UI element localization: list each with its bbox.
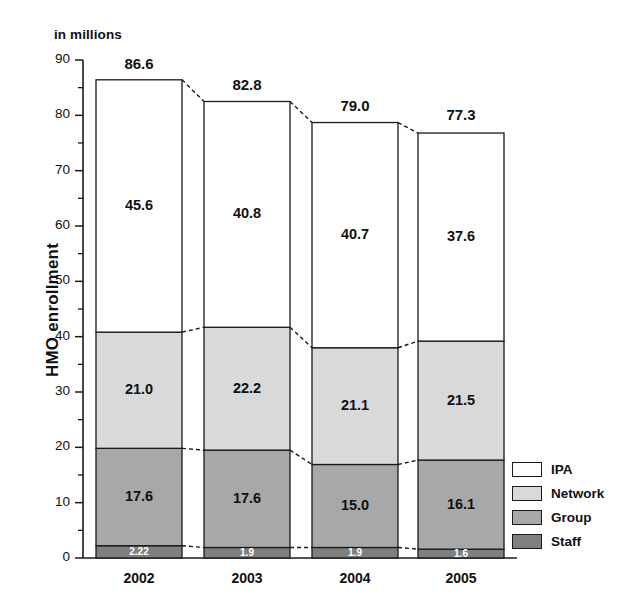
bar-total-2005: 77.3 — [412, 106, 510, 123]
bar-total-2002: 86.6 — [90, 55, 188, 72]
legend-item-network[interactable]: Network — [512, 481, 604, 505]
bar-segment-2005-staff[interactable] — [418, 549, 504, 558]
legend-label-group: Group — [551, 510, 592, 525]
x-tick-label-2005: 2005 — [412, 570, 510, 586]
x-tick-label-2002: 2002 — [90, 570, 188, 586]
bar-segment-2004-group[interactable] — [312, 464, 398, 547]
chart-legend: IPA Network Group Staff — [512, 457, 604, 553]
bar-segment-2005-group[interactable] — [418, 460, 504, 549]
bar-segment-2005-network[interactable] — [418, 341, 504, 460]
bar-segment-2004-staff[interactable] — [312, 547, 398, 558]
bar-segment-2004-network[interactable] — [312, 348, 398, 465]
legend-swatch-staff — [512, 534, 542, 549]
bar-total-2003: 82.8 — [198, 76, 296, 93]
legend-swatch-ipa — [512, 462, 542, 477]
y-tick-label-90: 90 — [36, 51, 70, 66]
y-tick-label-0: 0 — [36, 549, 70, 564]
legend-swatch-group — [512, 510, 542, 525]
stack-connector-2004-2005 — [398, 123, 418, 134]
stack-connector-2004-2005 — [398, 547, 418, 549]
legend-label-ipa: IPA — [551, 462, 573, 477]
y-tick-label-30: 30 — [36, 383, 70, 398]
y-tick-label-40: 40 — [36, 328, 70, 343]
bar-segment-2002-network[interactable] — [96, 332, 182, 448]
stack-connector-2002-2003 — [182, 327, 204, 332]
y-tick-label-70: 70 — [36, 162, 70, 177]
bar-total-2004: 79.0 — [306, 97, 404, 114]
stack-connector-2004-2005 — [398, 341, 418, 348]
bar-segment-2002-staff[interactable] — [96, 546, 182, 558]
stack-connector-2003-2004 — [290, 450, 312, 464]
legend-item-group[interactable]: Group — [512, 505, 604, 529]
bar-segment-2003-ipa[interactable] — [204, 102, 290, 328]
legend-swatch-network — [512, 486, 542, 501]
stack-connector-2002-2003 — [182, 546, 204, 548]
stack-connector-2002-2003 — [182, 448, 204, 450]
bar-segment-2004-ipa[interactable] — [312, 123, 398, 348]
bar-segment-2003-group[interactable] — [204, 450, 290, 547]
stack-connector-2003-2004 — [290, 327, 312, 347]
legend-label-network: Network — [551, 486, 604, 501]
bar-segment-2002-ipa[interactable] — [96, 80, 182, 332]
legend-label-staff: Staff — [551, 534, 581, 549]
x-tick-label-2004: 2004 — [306, 570, 404, 586]
y-tick-label-50: 50 — [36, 272, 70, 287]
stack-connector-2004-2005 — [398, 460, 418, 464]
hmo-enrollment-stacked-bar-chart: in millions HMO enrollment 0102030405060… — [0, 0, 630, 614]
legend-item-ipa[interactable]: IPA — [512, 457, 604, 481]
bar-segment-2005-ipa[interactable] — [418, 133, 504, 341]
bar-segment-2003-staff[interactable] — [204, 547, 290, 558]
y-tick-label-60: 60 — [36, 217, 70, 232]
y-tick-label-10: 10 — [36, 494, 70, 509]
bar-segment-2002-group[interactable] — [96, 448, 182, 545]
legend-item-staff[interactable]: Staff — [512, 529, 604, 553]
y-tick-label-80: 80 — [36, 106, 70, 121]
y-tick-label-20: 20 — [36, 438, 70, 453]
x-tick-label-2003: 2003 — [198, 570, 296, 586]
bar-segment-2003-network[interactable] — [204, 327, 290, 450]
